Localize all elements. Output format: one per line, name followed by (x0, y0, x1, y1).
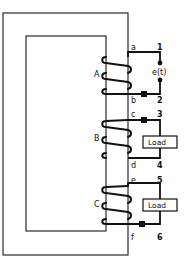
terminal-block-f (139, 221, 145, 227)
terminal-block-b (141, 91, 147, 97)
terminal-label-e: e (131, 176, 136, 185)
terminal-label-f: f (131, 233, 134, 242)
node-label-1: 1 (157, 43, 163, 52)
load-b-label: Load (148, 138, 166, 147)
transformer-core (3, 13, 128, 255)
core-outer-edge (3, 13, 128, 255)
terminal-label-c: c (131, 110, 135, 119)
winding-label-a: A (94, 70, 100, 79)
load-c-label: Load (148, 201, 166, 210)
node-label-4: 4 (157, 161, 163, 170)
source-terminal-dot-top (158, 61, 163, 66)
wire-a-to-1 (128, 52, 160, 63)
terminal-label-b: b (131, 96, 136, 105)
terminal-block-c (141, 117, 147, 123)
node-label-5: 5 (157, 176, 163, 185)
transformer-diagram: A B C a b c d e f 1 2 3 4 5 6 e(t) Load … (0, 0, 185, 264)
source-label: e(t) (152, 68, 166, 77)
winding-label-c: C (94, 200, 100, 209)
source-terminal-dot-bottom (158, 78, 163, 83)
terminal-label-a: a (131, 43, 136, 52)
winding-label-b: B (94, 134, 100, 143)
node-label-3: 3 (157, 110, 163, 119)
wire-b-to-2 (106, 80, 160, 94)
terminal-label-d: d (131, 161, 136, 170)
node-label-2: 2 (157, 96, 163, 105)
node-label-6: 6 (157, 233, 163, 242)
